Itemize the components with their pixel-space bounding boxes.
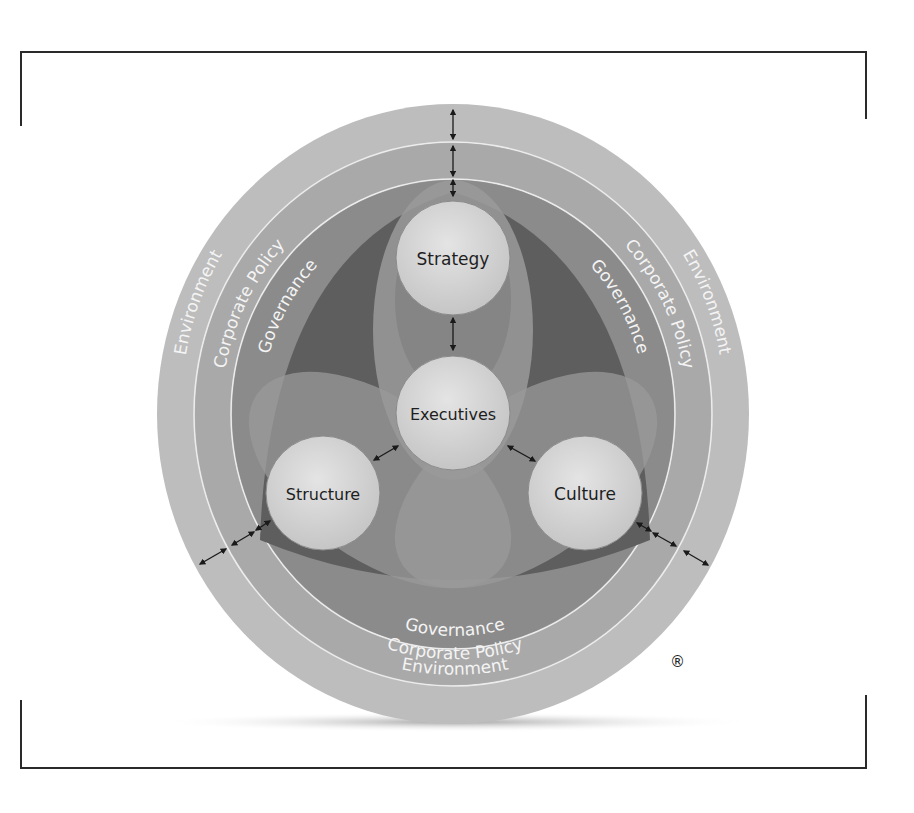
registered-trademark-mark: ®	[670, 653, 685, 671]
node-culture: Culture	[528, 436, 642, 550]
svg-text:Structure: Structure	[286, 485, 360, 504]
organization-model-diagram: Environment Corporate Policy Governance …	[0, 0, 914, 813]
svg-text:Culture: Culture	[554, 484, 616, 504]
svg-text:Executives: Executives	[410, 405, 496, 424]
node-strategy: Strategy	[396, 201, 510, 315]
node-structure: Structure	[266, 436, 380, 550]
node-executives: Executives	[396, 356, 510, 470]
svg-text:Strategy: Strategy	[417, 249, 490, 269]
